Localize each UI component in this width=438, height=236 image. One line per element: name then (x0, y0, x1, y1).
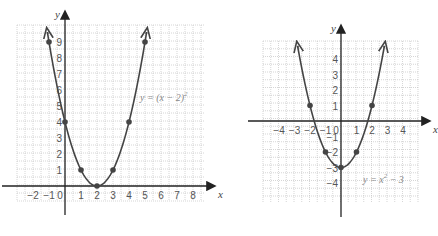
x-tick-label: 4 (400, 125, 406, 136)
y-tick-label: 7 (56, 69, 62, 80)
left-parabola-chart: xy−2−1012345678123456789y = (x − 2)2 (2, 8, 223, 215)
x-tick-label: −2 (27, 190, 39, 201)
x-tick-label: −4 (273, 125, 285, 136)
right-parabola-chart: xy−4−3−2−1012344321−1−2−3−4y = x2 − 3 (248, 22, 438, 217)
y-axis-label: y (54, 8, 60, 20)
x-tick-label: −2 (304, 125, 316, 136)
x-tick-label: 3 (110, 190, 116, 201)
x-tick-label: 3 (385, 125, 391, 136)
x-axis-label: x (432, 123, 438, 135)
data-point (78, 167, 84, 173)
data-point (62, 119, 68, 125)
x-tick-label: 4 (126, 190, 132, 201)
y-tick-label: 9 (56, 37, 62, 48)
equation-label: y = x2 − 3 (362, 172, 404, 185)
charts-canvas: xy−2−1012345678123456789y = (x − 2)2 xy−… (0, 0, 438, 236)
y-tick-label: 2 (56, 149, 62, 160)
y-tick-label: 4 (56, 117, 62, 128)
x-tick-label: 0 (57, 190, 63, 201)
data-point (323, 149, 329, 155)
data-point (369, 103, 375, 109)
data-point (110, 167, 116, 173)
y-axis-label: y (330, 22, 336, 34)
data-point (354, 149, 360, 155)
x-tick-label: 2 (94, 190, 100, 201)
data-point (46, 39, 52, 45)
y-tick-label: −1 (327, 132, 339, 143)
data-point (307, 103, 313, 109)
y-tick-label: 1 (56, 165, 62, 176)
x-tick-label: 1 (354, 125, 360, 136)
x-tick-label: 7 (174, 190, 180, 201)
y-tick-label: −3 (327, 163, 339, 174)
y-tick-label: 3 (332, 70, 338, 81)
y-tick-label: 2 (332, 85, 338, 96)
x-tick-label: 6 (158, 190, 164, 201)
y-tick-label: 3 (56, 133, 62, 144)
data-point (126, 119, 132, 125)
y-tick-label: −4 (327, 178, 339, 189)
x-axis-label: x (217, 188, 223, 200)
x-tick-label: −3 (289, 125, 301, 136)
x-tick-label: 2 (369, 125, 375, 136)
x-tick-label: −1 (43, 190, 55, 201)
y-tick-label: 4 (332, 54, 338, 65)
y-tick-label: 1 (332, 101, 338, 112)
data-point (338, 165, 344, 171)
y-tick-label: 8 (56, 53, 62, 64)
data-point (94, 183, 100, 189)
equation-label: y = (x − 2)2 (139, 90, 188, 104)
data-point (142, 39, 148, 45)
x-tick-label: 5 (142, 190, 148, 201)
x-tick-label: 8 (190, 190, 196, 201)
x-tick-label: 1 (78, 190, 84, 201)
